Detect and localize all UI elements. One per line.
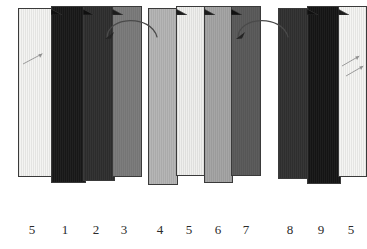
figure-canvas: 51234567895 [0,0,367,249]
strip-6-middle-stack [204,6,233,183]
strip-label-6-middle-stack: 6 [210,222,226,238]
strip-tab-6-middle-stack [204,1,215,7]
strip-tab-7-middle-stack [231,1,242,7]
strip-tab-3-left-stack [112,1,123,7]
strip-tab-5-middle-stack [176,1,187,7]
strip-label-8-right-stack: 8 [282,222,298,238]
strip-label-5-middle-stack: 5 [181,222,197,238]
strip-label-7-middle-stack: 7 [238,222,254,238]
rotation-arrow-1 [101,12,159,40]
strip-label-1-left-stack: 1 [57,222,73,238]
strip-label-9-right-stack: 9 [313,222,329,238]
annotation-arrow-left-stack-0 [23,52,51,68]
strip-label-2-left-stack: 2 [88,222,104,238]
rotation-arrow-2 [232,12,290,40]
strip-5-left-stack [18,8,54,177]
strip-tab-9-right-stack [307,1,318,7]
strip-label-3-left-stack: 3 [116,222,132,238]
strip-tab-1-left-stack [51,1,62,7]
right-stack [278,0,367,200]
strip-1-left-stack [51,6,86,183]
strip-5-right-stack [338,6,367,177]
strip-5-middle-stack [176,6,206,176]
strip-9-right-stack [307,6,341,184]
annotation-arrow-right-stack-1 [346,64,367,80]
strip-tab-2-left-stack [83,1,94,7]
strip-label-5-left-stack: 5 [24,222,40,238]
strip-tab-5-right-stack [338,1,349,7]
strip-label-4-middle-stack: 4 [152,222,168,238]
strip-label-5-right-stack: 5 [343,222,359,238]
